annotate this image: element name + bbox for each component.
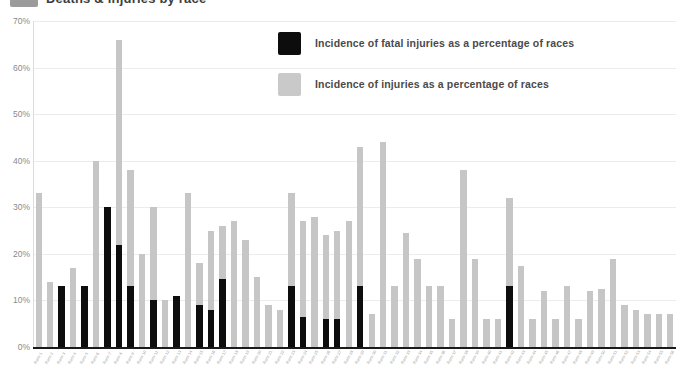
- bar-injuries: [587, 291, 593, 347]
- bar-injuries: [414, 259, 420, 347]
- bar-injuries: [552, 319, 558, 347]
- x-axis-line: [33, 347, 676, 349]
- x-axis-tick-label: Race 4: [67, 351, 78, 364]
- bar-injuries: [495, 319, 501, 347]
- y-axis-tick-label: 50%: [2, 109, 30, 119]
- bar-injuries: [610, 259, 616, 347]
- bar-injuries: [369, 314, 375, 347]
- x-axis-tick-label: Race 15: [193, 350, 205, 365]
- x-axis-tick-label: Race 34: [411, 350, 423, 365]
- bar-fatal-injuries: [150, 300, 156, 347]
- x-axis-tick-label: Race 12: [159, 350, 171, 365]
- x-axis-tick-label: Race 5: [78, 351, 89, 364]
- y-axis-tick-label: 40%: [2, 156, 30, 166]
- bar-injuries: [36, 193, 42, 347]
- bar-injuries: [656, 314, 662, 347]
- x-axis-tick-label: Race 33: [400, 350, 412, 365]
- bar-injuries: [426, 286, 432, 347]
- x-axis-tick-label: Race 47: [560, 350, 572, 365]
- x-axis-tick-label: Race 20: [250, 350, 262, 365]
- legend-label: Incidence of injuries as a percentage of…: [315, 78, 549, 90]
- bar-injuries: [311, 217, 317, 347]
- x-axis-tick-label: Race 22: [273, 350, 285, 365]
- bar-fatal-injuries: [208, 310, 214, 347]
- legend-label: Incidence of fatal injuries as a percent…: [315, 37, 574, 49]
- x-axis-tick-label: Race 8: [113, 351, 124, 364]
- bar-fatal-injuries: [288, 286, 294, 347]
- x-axis-tick-label: Race 42: [503, 350, 515, 365]
- x-axis-tick-label: Race 51: [606, 350, 618, 365]
- x-axis-tick-label: Race 50: [595, 350, 607, 365]
- bar-injuries: [265, 305, 271, 347]
- bar-injuries: [575, 319, 581, 347]
- bar-injuries: [277, 310, 283, 347]
- bar-injuries: [380, 142, 386, 347]
- legend-swatch-icon: [278, 73, 301, 96]
- x-axis-tick-label: Race 2: [44, 351, 55, 364]
- bar-fatal-injuries: [334, 319, 340, 347]
- legend-swatch-icon: [278, 32, 301, 55]
- legend-item[interactable]: Incidence of injuries as a percentage of…: [278, 69, 668, 99]
- y-axis-tick-label: 60%: [2, 63, 30, 73]
- x-axis-tick-label: Race 36: [434, 350, 446, 365]
- chart-container: Deaths & injuries by race 0%10%20%30%40%…: [0, 0, 676, 366]
- bar-injuries: [162, 300, 168, 347]
- x-axis-tick-label: Race 32: [388, 350, 400, 365]
- x-axis-tick-label: Race 38: [457, 350, 469, 365]
- legend-item[interactable]: Incidence of fatal injuries as a percent…: [278, 28, 668, 58]
- x-axis-tick-label: Race 35: [423, 350, 435, 365]
- bar-injuries: [254, 277, 260, 347]
- bar-injuries: [460, 170, 466, 347]
- x-axis-tick-label: Race 3: [55, 351, 66, 364]
- bar-injuries: [449, 319, 455, 347]
- bar-fatal-injuries: [173, 296, 179, 347]
- x-axis-tick-label: Race 14: [182, 350, 194, 365]
- x-axis-tick-label: Race 27: [331, 350, 343, 365]
- y-axis-tick-label: 70%: [2, 16, 30, 26]
- bar-fatal-injuries: [127, 286, 133, 347]
- x-axis-tick-label: Race 21: [262, 350, 274, 365]
- y-axis-tick-label: 0%: [2, 342, 30, 352]
- x-axis-tick-label: Race 45: [537, 350, 549, 365]
- bar-fatal-injuries: [300, 317, 306, 347]
- x-axis-tick-label: Race 30: [365, 350, 377, 365]
- y-axis-tick-label: 30%: [2, 202, 30, 212]
- x-axis-tick-label: Race 16: [204, 350, 216, 365]
- page-title: Deaths & injuries by race: [46, 0, 206, 6]
- bar-injuries: [93, 161, 99, 347]
- x-axis-tick-labels: Race 1Race 2Race 3Race 4Race 5Race 6Race…: [33, 350, 676, 366]
- chart-title-strip: Deaths & injuries by race: [0, 0, 676, 9]
- bar-fatal-injuries: [116, 245, 122, 347]
- bar-fatal-injuries: [81, 286, 87, 347]
- x-axis-tick-label: Race 56: [664, 350, 676, 365]
- x-axis-tick-label: Race 29: [354, 350, 366, 365]
- bar-fatal-injuries: [357, 286, 363, 347]
- bar-injuries: [242, 240, 248, 347]
- x-axis-tick-label: Race 48: [572, 350, 584, 365]
- bar-fatal-injuries: [323, 319, 329, 347]
- x-axis-tick-label: Race 44: [526, 350, 538, 365]
- x-axis-tick-label: Race 40: [480, 350, 492, 365]
- x-axis-tick-label: Race 52: [618, 350, 630, 365]
- bar-injuries: [483, 319, 489, 347]
- x-axis-tick-label: Race 28: [342, 350, 354, 365]
- x-axis-tick-label: Race 23: [285, 350, 297, 365]
- bar-injuries: [518, 266, 524, 348]
- bar-injuries: [70, 268, 76, 347]
- x-axis-tick-label: Race 49: [583, 350, 595, 365]
- bar-injuries: [541, 291, 547, 347]
- x-axis-tick-label: Race 46: [549, 350, 561, 365]
- bar-injuries: [437, 286, 443, 347]
- x-axis-tick-label: Race 41: [492, 350, 504, 365]
- x-axis-tick-label: Race 25: [308, 350, 320, 365]
- y-axis-tick-label: 20%: [2, 249, 30, 259]
- x-axis-tick-label: Race 53: [629, 350, 641, 365]
- bar-injuries: [598, 289, 604, 347]
- x-axis-tick-label: Race 39: [469, 350, 481, 365]
- bar-injuries: [47, 282, 53, 347]
- bar-injuries: [391, 286, 397, 347]
- x-axis-tick-label: Race 18: [227, 350, 239, 365]
- bar-injuries: [529, 319, 535, 347]
- x-axis-tick-label: Race 1: [33, 351, 43, 364]
- x-axis-tick-label: Race 26: [319, 350, 331, 365]
